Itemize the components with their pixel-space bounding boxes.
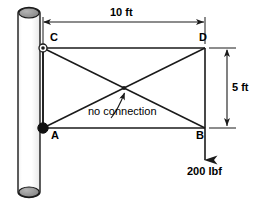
node-label-c: C xyxy=(50,32,58,43)
height-dimension-label: 5 ft xyxy=(232,82,249,93)
joint-c-pin-center xyxy=(41,46,45,50)
node-label-a: A xyxy=(51,130,59,141)
vertical-pole xyxy=(18,8,40,198)
truss-diagram-figure: 10 ft 5 ft C D A B no connection 200 lbf xyxy=(0,0,256,205)
crossing-point-marker xyxy=(122,86,126,90)
node-label-b: B xyxy=(196,130,204,141)
no-connection-label: no connection xyxy=(88,106,157,117)
span-dimension-10ft xyxy=(43,17,205,44)
span-dimension-label: 10 ft xyxy=(110,7,133,18)
joint-a-support-icon xyxy=(38,123,48,133)
load-magnitude-label: 200 lbf xyxy=(187,166,222,177)
pole-top-cap-icon xyxy=(19,8,39,18)
pole-bottom-cap-icon xyxy=(19,187,39,197)
node-label-d: D xyxy=(199,32,207,43)
pole-body xyxy=(18,8,40,198)
